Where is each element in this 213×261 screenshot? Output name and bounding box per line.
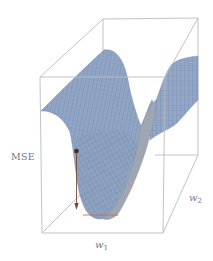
axis-label-w2-sub: 2 xyxy=(198,197,202,205)
axis-label-mse: MSE xyxy=(11,152,35,162)
axis-label-w1-sub: 1 xyxy=(104,244,108,252)
surface-plot xyxy=(0,0,213,261)
surface-right-ridge xyxy=(150,56,198,140)
mse-surface-figure: MSE w1 w2 xyxy=(0,0,213,261)
current-weight-point xyxy=(74,149,79,154)
axis-label-w2: w2 xyxy=(189,193,202,205)
axis-label-w1-base: w xyxy=(95,239,104,250)
gradient-arrow-head-icon xyxy=(74,203,78,210)
axis-label-w2-base: w xyxy=(189,192,198,203)
axis-label-w1: w1 xyxy=(95,240,108,252)
